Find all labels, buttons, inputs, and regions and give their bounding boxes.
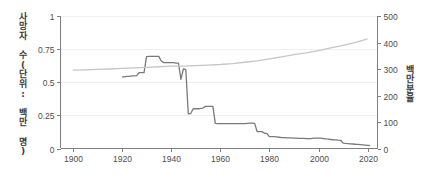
x-tick-label-0: 1900 [64,154,83,164]
left-axis-title-char-10: 백 [19,107,27,118]
x-tick-label-3: 1960 [211,154,230,164]
right-tick-label-2: 200 [384,92,398,102]
x-tick-label-5: 2000 [310,154,329,164]
dual-axis-line-chart: 00.250.50.751 0100200300400500 190019201… [0,0,426,182]
right-axis-title-char-3: 율 [406,92,414,103]
right-axis-title-char-1: 만 [406,73,415,84]
right-axis-title-char-2: 분 [406,84,414,94]
left-axis-title-char-8: : [21,89,25,99]
left-axis-title-char-7: 위 [19,78,27,89]
left-axis-title-char-4: 수 [19,50,27,60]
right-axis-title: 백만분율 [406,64,415,104]
left-axis-title-char-13: 명 [19,136,27,147]
right-tick-label-3: 300 [384,65,398,75]
left-tick-label-1: 0.25 [38,111,55,121]
left-axis-title-char-0: 사 [19,11,28,22]
left-tick-label-3: 0.75 [38,45,55,55]
x-tick-label-1: 1920 [113,154,132,164]
left-tick-label-0: 0 [50,145,55,155]
x-tick-label-4: 1980 [260,154,279,164]
right-tick-label-5: 500 [384,12,398,22]
x-tick-label-6: 2020 [359,154,378,164]
right-tick-label-4: 400 [384,39,398,49]
left-axis-title-char-6: 단 [19,68,28,79]
x-tick-label-2: 1940 [162,154,181,164]
right-axis-title-char-0: 백 [406,64,414,75]
left-tick-label-4: 1 [50,12,55,22]
left-axis-title-char-2: 자 [19,30,28,41]
left-axis-title-char-1: 망 [19,20,28,31]
left-axis-title-char-14: ) [21,146,25,156]
right-tick-label-1: 100 [384,118,398,128]
left-tick-label-2: 0.5 [43,78,55,88]
left-axis-title-char-5: ( [21,60,25,70]
right-tick-label-0: 0 [384,145,389,155]
left-axis-title-char-11: 만 [19,116,28,127]
